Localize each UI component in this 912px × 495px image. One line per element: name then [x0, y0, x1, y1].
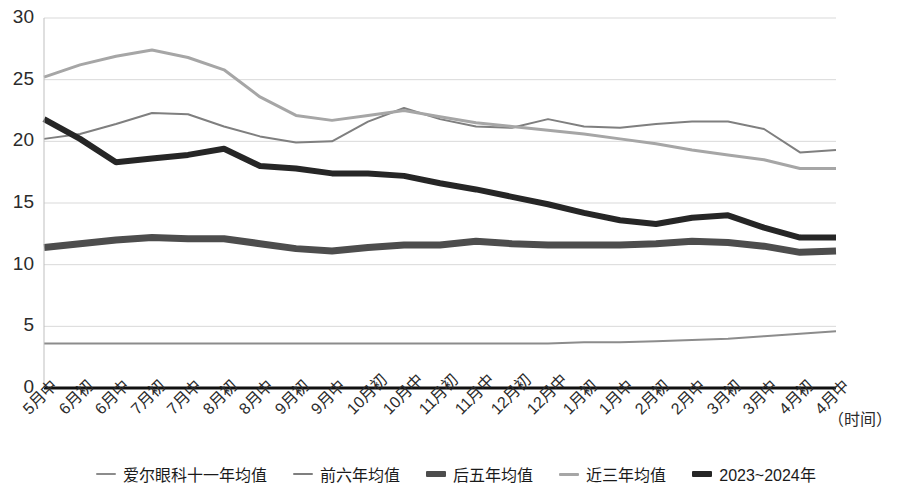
legend-label: 前六年均值: [320, 462, 400, 486]
chart-legend: 爱尔眼科十一年均值前六年均值后五年均值近三年均值2023~2024年: [0, 462, 912, 486]
legend-item[interactable]: 近三年均值: [559, 462, 666, 486]
legend-item[interactable]: 2023~2024年: [692, 462, 816, 486]
legend-swatch: [426, 471, 446, 477]
legend-item[interactable]: 前六年均值: [293, 462, 400, 486]
series-line-1: [44, 108, 836, 152]
series-line-2: [44, 238, 836, 253]
legend-label: 后五年均值: [453, 462, 533, 486]
legend-item[interactable]: 后五年均值: [426, 462, 533, 486]
legend-label: 近三年均值: [586, 462, 666, 486]
y-axis-tick-label: 5: [0, 314, 34, 336]
data-series-group: [44, 50, 836, 344]
y-axis-tick-label: 20: [0, 129, 34, 151]
legend-swatch: [559, 473, 579, 476]
legend-item[interactable]: 爱尔眼科十一年均值: [96, 462, 267, 486]
chart-plot-area: [0, 0, 912, 495]
legend-label: 2023~2024年: [719, 462, 816, 486]
legend-swatch: [293, 473, 313, 475]
series-line-3: [44, 50, 836, 168]
legend-swatch: [96, 473, 116, 475]
series-line-4: [44, 119, 836, 237]
legend-swatch: [692, 471, 712, 477]
x-axis-title: （时间）: [828, 406, 892, 430]
y-axis-tick-label: 15: [0, 191, 34, 213]
y-axis-tick-label: 10: [0, 253, 34, 275]
legend-label: 爱尔眼科十一年均值: [123, 462, 267, 486]
series-line-0: [44, 331, 836, 343]
y-axis-tick-label: 25: [0, 68, 34, 90]
chart-container: 302520151050 5月中6月初6月中7月初7月中8月初8月中9月初9月中…: [0, 0, 912, 495]
y-axis-tick-label: 30: [0, 6, 34, 28]
gridlines: [44, 18, 836, 388]
